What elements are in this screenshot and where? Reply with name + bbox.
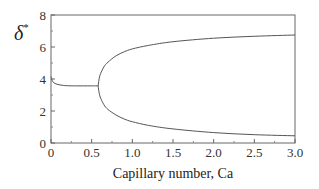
x-tick-label: 3.0 [287, 145, 303, 160]
y-tick-label: 2 [40, 104, 47, 119]
x-axis-label: Capillary number, Ca [113, 166, 234, 181]
series-line-upper-branch [98, 35, 295, 86]
x-tick-label: 0.5 [84, 145, 100, 160]
y-axis-label: δ* [14, 21, 29, 44]
y-tick-label: 0 [40, 136, 47, 151]
plot-frame [51, 15, 295, 143]
x-tick-label: 1.5 [165, 145, 181, 160]
bifurcation-chart: 00.51.01.52.02.53.002468 δ* Capillary nu… [0, 0, 319, 189]
y-tick-label: 8 [40, 8, 47, 23]
axis-ticks: 00.51.01.52.02.53.002468 [40, 8, 304, 160]
y-tick-label: 6 [40, 40, 47, 55]
series-line-single-branch [51, 77, 98, 86]
x-tick-label: 1.0 [124, 145, 140, 160]
x-tick-label: 0 [48, 145, 55, 160]
plot-border [51, 15, 295, 143]
x-tick-label: 2.5 [246, 145, 262, 160]
y-tick-label: 4 [40, 72, 47, 87]
x-tick-label: 2.0 [206, 145, 222, 160]
series-line-lower-branch [98, 86, 295, 136]
data-lines [51, 35, 295, 136]
